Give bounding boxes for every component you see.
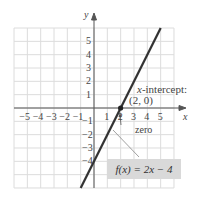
x-tick-label: 2 — [118, 112, 123, 122]
y-tick-label: −1 — [82, 116, 93, 126]
x-tick-label: −5 — [19, 112, 30, 122]
y-tick-label: −4 — [82, 156, 93, 166]
equation-box: f(x) = 2x − 4 — [107, 159, 181, 179]
x-intercept-label: x-intercept: — [137, 84, 187, 94]
x-tick-label: 5 — [158, 112, 163, 122]
x-axis-label: x — [183, 112, 187, 122]
y-tick-label: 1 — [86, 90, 91, 100]
intercept-point-label: (2, 0) — [129, 95, 153, 105]
y-axis-label: y — [84, 10, 88, 20]
y-tick-label: 4 — [86, 50, 91, 60]
x-intercept-point — [118, 105, 123, 110]
x-tick-label: −3 — [46, 112, 57, 122]
x-tick-label: 1 — [104, 112, 109, 122]
x-tick-label: 4 — [144, 112, 149, 122]
x-tick-label: 3 — [131, 112, 136, 122]
y-tick-label: 5 — [86, 36, 91, 46]
y-tick-label: 3 — [86, 63, 91, 73]
y-tick-label: 2 — [86, 76, 91, 86]
zero-label: zero — [135, 125, 152, 135]
x-tick-label: −2 — [59, 112, 70, 122]
x-tick-label: −4 — [33, 112, 44, 122]
y-tick-label: −2 — [82, 130, 93, 140]
y-tick-label: −3 — [82, 143, 93, 153]
